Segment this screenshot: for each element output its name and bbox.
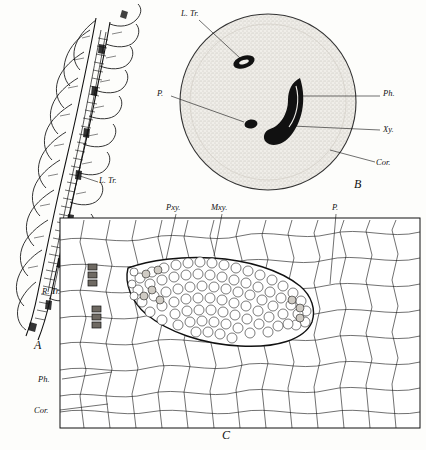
label-b-leaf-trace: L. Tr. bbox=[181, 8, 199, 18]
label-b-protoxylem: P. bbox=[157, 88, 163, 98]
panel-c-illustration bbox=[0, 0, 426, 450]
label-b-cortex: Cor. bbox=[376, 157, 390, 167]
figure-plate: L. Tr. P. Ph. Xy. Cor. L. Tr. R. Tr. Pxy… bbox=[0, 0, 426, 450]
label-c-phloem: Ph. bbox=[38, 374, 50, 384]
label-c-cortex: Cor. bbox=[34, 405, 48, 415]
label-c-metaxylem: Mxy. bbox=[211, 202, 227, 212]
panel-label-a: A bbox=[34, 338, 41, 353]
panel-label-c: C bbox=[222, 428, 230, 443]
label-a-leaf-trace: L. Tr. bbox=[99, 175, 117, 185]
label-c-phloem-pole: P. bbox=[332, 202, 338, 212]
panel-label-b: B bbox=[354, 177, 361, 192]
label-a-root-trace: R. Tr. bbox=[42, 286, 60, 296]
label-c-protoxylem: Pxy. bbox=[166, 202, 180, 212]
label-b-xylem: Xy. bbox=[383, 124, 394, 134]
label-b-phloem: Ph. bbox=[383, 88, 395, 98]
